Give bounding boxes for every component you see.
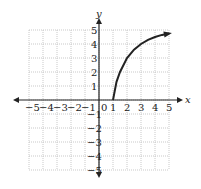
x-tick-label: −2 — [67, 102, 82, 113]
x-tick-label: 4 — [152, 102, 158, 113]
y-tick-label: 3 — [91, 53, 97, 64]
origin-label: 0 — [101, 102, 107, 113]
curve-arrowhead-icon — [163, 31, 172, 37]
y-tick-label: −2 — [87, 123, 102, 134]
coordinate-plane: −5−4−3−2−11234512345−1−2−3−4−50 x y — [0, 0, 201, 189]
y-tick-label: 4 — [91, 39, 97, 50]
x-tick-label: 2 — [124, 102, 130, 113]
y-tick-label: −5 — [87, 165, 102, 176]
y-tick-label: 5 — [91, 25, 97, 36]
x-tick-label: −4 — [39, 102, 54, 113]
y-tick-label: −3 — [87, 137, 102, 148]
x-axis-label: x — [185, 94, 191, 105]
y-tick-label: −4 — [87, 151, 102, 162]
x-tick-label: −3 — [53, 102, 68, 113]
y-tick-label: 1 — [91, 81, 97, 92]
y-axis-label: y — [95, 8, 102, 19]
x-tick-label: 3 — [138, 102, 144, 113]
y-tick-label: −1 — [87, 109, 102, 120]
x-tick-label: 5 — [166, 102, 172, 113]
x-tick-label: −5 — [25, 102, 40, 113]
y-tick-label: 2 — [91, 67, 97, 78]
x-tick-label: 1 — [110, 102, 116, 113]
